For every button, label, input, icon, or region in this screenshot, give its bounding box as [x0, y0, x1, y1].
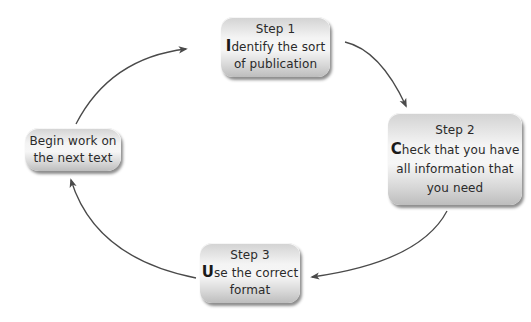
node-step-3: Step 3 Use the correct format [200, 243, 300, 303]
step-3-initial: U [202, 263, 214, 281]
step-1-text-line-1: Identify the sort [226, 38, 326, 56]
step-1-line-1-rest: dentify the sort [231, 40, 325, 54]
step-1-text-line-2: of publication [234, 56, 317, 73]
step-1-title: Step 1 [256, 21, 295, 38]
node-step-2: Step 2 Check that you have all informati… [388, 113, 522, 205]
step-2-text-line-1: Check that you have [391, 140, 520, 160]
step-2-initial: C [391, 140, 402, 158]
cycle-diagram: Step 1 Identify the sort of publication … [0, 0, 531, 322]
arrow-begin-to-step1 [76, 49, 186, 124]
begin-text-line-2: the next text [34, 150, 113, 167]
node-step-1: Step 1 Identify the sort of publication [221, 17, 330, 77]
step-2-text-line-3: you need [427, 179, 484, 198]
arrow-step2-to-step3 [312, 211, 447, 277]
step-3-text-line-2: format [230, 282, 271, 299]
step-2-text-line-2: all information that [396, 160, 513, 179]
arrow-step1-to-step2 [345, 42, 406, 106]
begin-text-line-1: Begin work on [29, 133, 116, 150]
step-3-text-line-1: Use the correct [202, 264, 299, 282]
node-begin-next: Begin work on the next text [25, 128, 121, 171]
step-3-line-1-rest: se the correct [214, 266, 298, 280]
step-2-title: Step 2 [435, 121, 474, 140]
step-2-line-1-rest: heck that you have [402, 143, 520, 157]
arrow-step3-to-begin [71, 180, 196, 278]
step-3-title: Step 3 [230, 247, 269, 264]
